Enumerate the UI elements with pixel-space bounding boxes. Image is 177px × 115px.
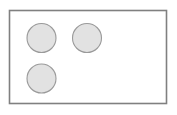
circle-top-left[interactable] [27,24,56,53]
diagram-canvas [0,0,177,115]
circle-top-right[interactable] [73,24,102,53]
diagram-svg [0,0,177,115]
circle-bottom-left[interactable] [27,64,56,93]
